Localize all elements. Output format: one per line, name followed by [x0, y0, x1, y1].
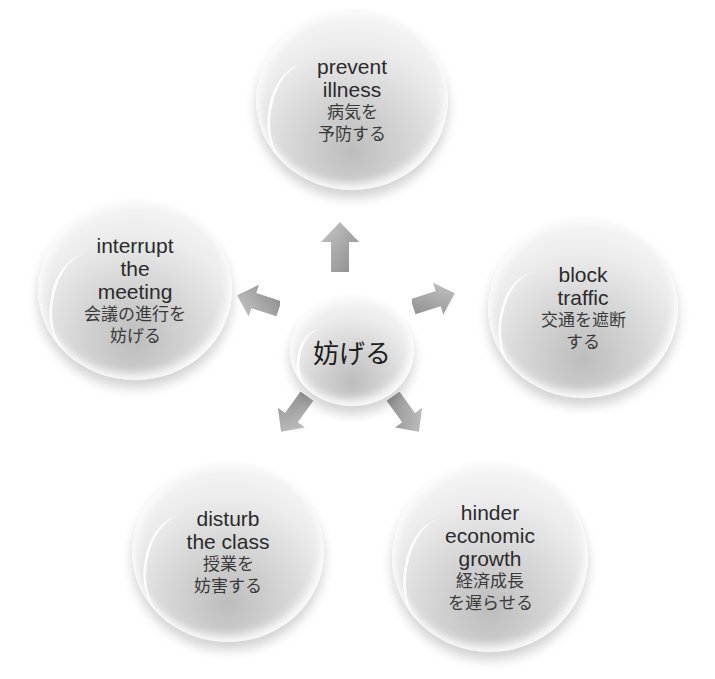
node-ja-line: 授業を [203, 553, 254, 575]
node-en-line: illness [323, 78, 381, 101]
arrow-left-icon [236, 280, 280, 324]
node-ja-line: 会議の進行を [84, 303, 186, 325]
node-disturb-the-class: disturb the class 授業を 妨害する [132, 462, 324, 642]
node-en-line: traffic [558, 286, 609, 309]
node-en-line: the [120, 257, 149, 280]
node-en-line: the class [187, 530, 270, 553]
node-en-line: prevent [317, 55, 387, 78]
node-en-line: hinder [461, 501, 519, 524]
center-label: 妨げる [313, 333, 391, 370]
node-ja-line: 経済成長 [456, 570, 524, 592]
arrow-right-icon [412, 278, 456, 322]
node-block-traffic: block traffic 交通を遮断 する [488, 218, 678, 398]
node-ja-line: 病気を [327, 101, 378, 123]
node-en-line: economic [445, 524, 535, 547]
node-en-line: disturb [196, 507, 259, 530]
node-ja-line: 妨害する [194, 575, 262, 597]
node-en-line: growth [458, 547, 521, 570]
node-ja-line: 交通を遮断 [541, 309, 626, 331]
node-hinder-economic-growth: hinder economic growth 経済成長 を遅らせる [392, 462, 588, 652]
arrow-up-icon [321, 222, 359, 272]
node-en-line: block [558, 263, 607, 286]
node-en-line: meeting [98, 280, 173, 303]
node-prevent-illness: prevent illness 病気を 予防する [256, 10, 448, 190]
node-ja-line: 妨げる [110, 325, 161, 347]
arrow-bottom-right-icon [384, 392, 428, 436]
node-ja-line: を遅らせる [448, 592, 533, 614]
node-interrupt-the-meeting: interrupt the meeting 会議の進行を 妨げる [38, 200, 232, 380]
node-ja-line: する [566, 331, 600, 353]
node-en-line: interrupt [96, 234, 173, 257]
arrow-bottom-left-icon [272, 392, 316, 436]
center-node: 妨げる [290, 296, 414, 406]
node-ja-line: 予防する [318, 123, 386, 145]
